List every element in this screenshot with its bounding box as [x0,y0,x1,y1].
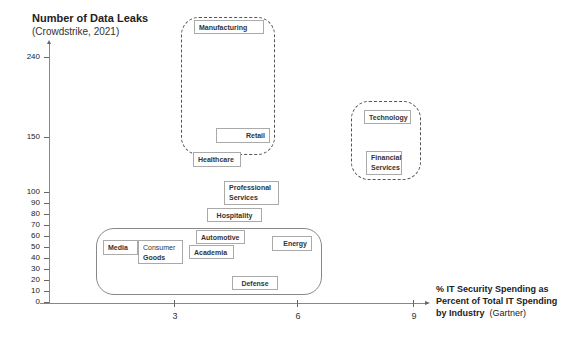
y-tick-30: 30 [16,264,40,273]
point-label-technology: Technology [364,110,411,124]
x-axis-source: (Gartner) [490,308,527,318]
x-axis-title-line-1: % IT Security Spending as [436,283,557,295]
point-label-manufacturing: Manufacturing [194,20,264,34]
y-axis-source: (Crowdstrike, 2021) [32,26,119,37]
point-label-defense: Defense [232,276,278,290]
y-axis-arrow-icon [47,40,51,44]
x-tickmark [413,300,414,307]
point-label-professional-services: Professional Services [224,181,279,205]
point-label-healthcare: Healthcare [193,152,241,167]
x-tickmark [174,300,175,307]
x-axis-line [40,303,425,304]
y-tickmark [44,57,49,58]
y-tick-100: 100 [16,187,40,196]
x-tick-6: 6 [288,311,308,321]
point-label-academia: Academia [189,245,234,259]
y-tick-150: 150 [16,132,40,141]
y-tick-80: 80 [16,209,40,218]
point-label-consumer-goods: Consumer Goods [138,240,183,264]
y-tickmark [44,236,49,237]
x-axis-arrow-icon [425,301,430,305]
y-tick-50: 50 [16,242,40,251]
x-axis-title-line-3: by Industry [436,308,485,318]
y-tick-60: 60 [16,231,40,240]
y-tickmark [44,269,49,270]
point-label-retail: Retail [216,128,270,143]
y-tickmark [44,280,49,281]
point-label-media: Media [103,240,138,255]
y-tickmark [44,291,49,292]
y-tickmark [44,137,49,138]
y-axis-title: Number of Data Leaks [32,12,148,24]
x-tick-9: 9 [404,311,424,321]
y-tickmark [44,247,49,248]
y-tickmark [44,214,49,215]
y-tick-70: 70 [16,220,40,229]
x-tick-3: 3 [165,311,185,321]
y-axis-line [49,42,50,304]
y-tick-40: 40 [16,253,40,262]
y-tickmark [44,258,49,259]
label-line: Services [229,193,274,203]
y-tickmark [44,302,49,303]
x-axis-title: % IT Security Spending as Percent of Tot… [436,283,557,319]
label-line: Consumer [143,243,178,253]
y-tick-90: 90 [16,198,40,207]
y-tick-240: 240 [16,52,40,61]
x-tickmark [297,300,298,307]
point-label-automotive: Automotive [196,230,245,244]
y-tickmark [44,225,49,226]
y-tickmark [44,192,49,193]
y-tick-20: 20 [16,275,40,284]
label-line: Services [371,163,397,173]
y-tickmark [44,203,49,204]
label-line: Goods [143,253,178,263]
label-line: Professional [229,183,274,193]
point-label-energy: Energy [272,236,312,251]
y-tick-10: 10 [16,286,40,295]
x-axis-title-line-2: Percent of Total IT Spending [436,295,557,307]
y-tick-0: 0 [16,297,40,306]
label-line: Financial [371,153,397,163]
point-label-hospitality: Hospitality [207,208,262,222]
point-label-financial-services: Financial Services [366,151,402,175]
